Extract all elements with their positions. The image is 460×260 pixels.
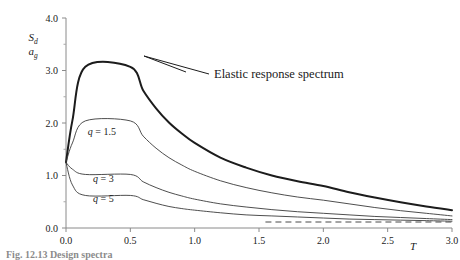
y-tick-label: 4.0 xyxy=(46,13,59,24)
x-tick-label: 1.0 xyxy=(188,235,201,246)
y-axis-title: Sd ag xyxy=(20,32,46,60)
chart-axes xyxy=(66,18,452,228)
y-tick-label: 3.0 xyxy=(46,65,59,76)
x-axis-title: T xyxy=(410,240,417,252)
y-tick-labels: 0.01.02.03.04.0 xyxy=(46,13,59,234)
annotation-elastic-response-spectrum: Elastic response spectrum xyxy=(214,67,344,81)
figure-caption: Fig. 12.13 Design spectra xyxy=(6,249,112,260)
x-tick-labels: 0.00.51.01.52.02.53.0 xyxy=(60,235,459,246)
figure-container: 0.01.02.03.04.0 0.00.51.01.52.02.53.0 q … xyxy=(0,0,460,260)
curve-inline-labels: q = 1.5q = 3q = 5 xyxy=(88,126,116,204)
curve-label-q-1-5: q = 1.5 xyxy=(88,126,116,137)
x-tick-label: 2.5 xyxy=(381,235,394,246)
y-tick-label: 1.0 xyxy=(46,170,59,181)
chart-curves xyxy=(66,62,452,222)
x-tick-marks xyxy=(66,228,452,232)
y-tick-label: 0.0 xyxy=(46,223,59,234)
x-tick-label: 2.0 xyxy=(317,235,330,246)
elastic-spectrum-leader-line xyxy=(144,56,209,74)
x-tick-label: 0.5 xyxy=(124,235,137,246)
y-axis-title-denominator: ag xyxy=(20,46,46,60)
curve-elastic-response-spectrum xyxy=(66,62,452,210)
y-axis-title-numerator: Sd xyxy=(20,32,46,46)
response-spectrum-chart: 0.01.02.03.04.0 0.00.51.01.52.02.53.0 q … xyxy=(0,0,460,260)
x-tick-label: 3.0 xyxy=(446,235,459,246)
x-tick-label: 0.0 xyxy=(60,235,73,246)
x-tick-label: 1.5 xyxy=(253,235,266,246)
curve-label-q-5: q = 5 xyxy=(93,193,114,204)
y-tick-label: 2.0 xyxy=(46,118,59,129)
y-tick-marks xyxy=(62,18,66,228)
curve-label-q-3: q = 3 xyxy=(93,173,114,184)
